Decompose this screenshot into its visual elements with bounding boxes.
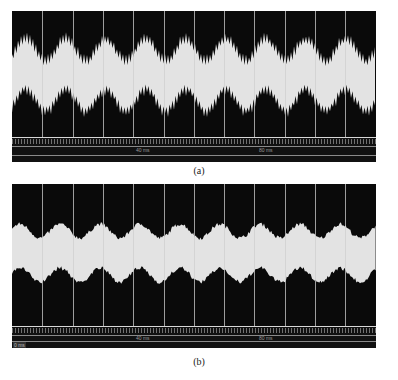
gridline — [315, 11, 316, 137]
waveform-plot-b — [12, 184, 376, 326]
gridline — [224, 184, 225, 326]
timeline-label-40ms: 40 ms — [136, 147, 150, 153]
gridline — [315, 184, 316, 326]
timeline-ticks — [12, 328, 376, 333]
gridline — [254, 184, 255, 326]
timeline-origin-label: 0 ms — [13, 342, 26, 348]
gridline — [194, 11, 195, 137]
gridline — [164, 184, 165, 326]
gridline — [42, 11, 43, 137]
gridline — [164, 11, 165, 137]
gridline — [103, 184, 104, 326]
gridline — [345, 184, 346, 326]
timeline-ticks — [12, 139, 376, 144]
gridline — [133, 184, 134, 326]
gridline — [73, 11, 74, 137]
waveform-panel-b: 40 ms 80 ms 0 ms — [12, 184, 376, 348]
timeline-ruler-b: 40 ms 80 ms 0 ms — [12, 326, 376, 348]
caption-b: (b) — [0, 356, 398, 367]
gridline — [285, 184, 286, 326]
caption-a: (a) — [0, 165, 398, 176]
gridline — [345, 11, 346, 137]
gridline — [42, 184, 43, 326]
gridline — [224, 11, 225, 137]
gridline — [73, 184, 74, 326]
gridline — [285, 11, 286, 137]
timeline-ruler-a: 40 ms 80 ms — [12, 137, 376, 162]
gridline — [194, 184, 195, 326]
gridline — [103, 11, 104, 137]
timeline-label-80ms: 80 ms — [259, 147, 273, 153]
gridline — [133, 11, 134, 137]
gridline — [254, 11, 255, 137]
waveform-panel-a: 40 ms 80 ms — [12, 11, 376, 162]
waveform-plot-a — [12, 11, 376, 137]
